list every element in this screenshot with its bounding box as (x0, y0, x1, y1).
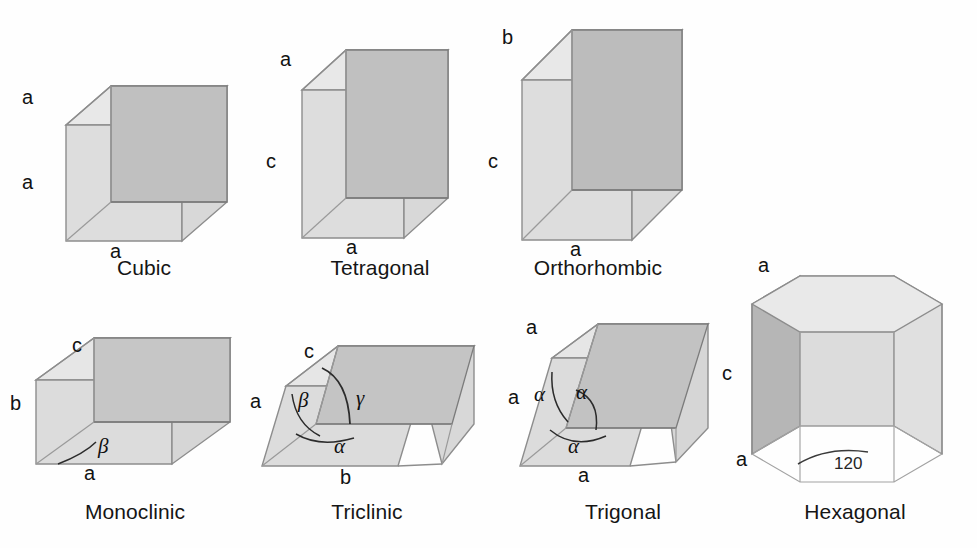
orthorhombic-label-b-top: b (502, 26, 513, 49)
triclinic-angle-gamma: γ (356, 386, 364, 411)
trigonal-angle-alpha-bottom: α (568, 434, 579, 459)
trigonal-unit-cell: a a a α α α (530, 318, 715, 483)
orthorhombic-unit-cell: b c a (510, 22, 695, 252)
trigonal-label-a-bottom: a (578, 464, 589, 487)
trigonal-angle-alpha-left: α (534, 382, 545, 407)
tetragonal-unit-cell: a c a (288, 40, 463, 250)
monoclinic-label-c-top: c (72, 334, 82, 357)
monoclinic-label-a-bottom: a (84, 462, 95, 485)
trigonal-label-a-left: a (508, 386, 519, 409)
trigonal-angle-alpha-mid: α (576, 380, 587, 405)
hexagonal-label-c-left: c (722, 362, 732, 385)
crystal-systems-figure: a a a Cubic a c a Tetragonal (0, 0, 977, 548)
monoclinic-unit-cell: c b a β (22, 330, 237, 480)
triclinic-angle-beta: β (298, 388, 308, 413)
triclinic-label-c-top: c (304, 340, 314, 363)
hexagonal-label-a-top: a (758, 254, 769, 277)
cubic-system-label: Cubic (54, 256, 234, 280)
tetragonal-system-label: Tetragonal (295, 256, 465, 280)
cubic-unit-cell: a a a (44, 78, 234, 253)
cubic-label-a-top: a (22, 86, 33, 109)
hexagonal-angle-120: 120 (834, 454, 862, 474)
hexagonal-system-label: Hexagonal (760, 500, 950, 524)
monoclinic-label-b-left: b (10, 392, 21, 415)
triclinic-unit-cell: c a b β γ α (262, 338, 482, 480)
monoclinic-angle-beta: β (98, 434, 108, 459)
triclinic-label-b-bottom: b (340, 466, 351, 489)
tetragonal-label-c-left: c (266, 150, 276, 173)
triclinic-angle-alpha: α (334, 434, 345, 459)
orthorhombic-system-label: Orthorhombic (498, 256, 698, 280)
triclinic-system-label: Triclinic (282, 500, 452, 524)
hexagonal-unit-cell: a c a 120 (742, 258, 957, 476)
orthorhombic-label-c-left: c (488, 150, 498, 173)
monoclinic-system-label: Monoclinic (40, 500, 230, 524)
cubic-label-a-left: a (22, 171, 33, 194)
trigonal-system-label: Trigonal (538, 500, 708, 524)
tetragonal-label-a-top: a (280, 48, 291, 71)
hexagonal-label-a-bottom: a (736, 448, 747, 471)
triclinic-label-a-left: a (250, 390, 261, 413)
trigonal-label-a-top: a (526, 316, 537, 339)
